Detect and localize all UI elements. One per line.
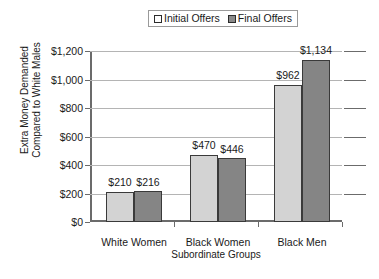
x-axis-label-black-women: Black Women (186, 236, 251, 248)
y-axis-label-400: $400 (60, 160, 83, 171)
y-axis-title-line-1: Extra Money Demanded (19, 15, 31, 185)
bar-value-label-black-women-final: $446 (220, 144, 243, 155)
y-axis-title: Extra Money Demanded Compared to White M… (19, 15, 43, 185)
x-axis-label-black-men: Black Men (277, 236, 326, 248)
grid-stub-1000 (344, 80, 366, 81)
bar-black-women-final (218, 158, 246, 222)
y-axis-label-200: $200 (60, 188, 83, 199)
bar-value-label-white-women-initial: $210 (108, 177, 131, 188)
x-axis-title: Subordinate Groups (90, 249, 342, 261)
y-axis-label-600: $600 (60, 131, 83, 142)
bar-black-women-initial (190, 155, 218, 222)
y-tick-800 (85, 108, 90, 109)
y-tick-1200 (85, 51, 90, 52)
bar-white-women-initial (106, 192, 134, 222)
bar-black-men-initial (274, 85, 302, 222)
grid-stub-1200 (344, 51, 366, 52)
legend-item-initial-offers: Initial Offers (154, 13, 220, 24)
y-axis-label-0: $0 (71, 217, 83, 228)
bar-value-label-black-men-final: $1,134 (300, 45, 332, 56)
bar-white-women-final (134, 191, 162, 222)
y-tick-0 (85, 222, 90, 223)
legend-swatch-final-offers-icon (228, 15, 236, 23)
chart-legend: Initial Offers Final Offers (148, 10, 298, 27)
legend-label-final-offers: Final Offers (238, 13, 292, 24)
legend-swatch-initial-offers-icon (154, 15, 162, 23)
plot-area: $1,200 $1,000 $800 $600 $400 $200 $0 $21… (90, 51, 342, 222)
bar-black-men-final (302, 60, 330, 222)
x-axis-label-white-women: White Women (101, 236, 167, 248)
y-tick-1000 (85, 80, 90, 81)
bar-value-label-black-men-initial: $962 (276, 70, 299, 81)
y-tick-200 (85, 194, 90, 195)
grid-stub-800 (344, 108, 366, 109)
grid-stub-200 (344, 194, 366, 195)
y-axis-title-line-2: Compared to White Males (31, 15, 43, 185)
x-axis-separator-2 (258, 222, 259, 227)
bar-chart: Initial Offers Final Offers Extra Money … (0, 0, 379, 279)
grid-stub-400 (344, 165, 366, 166)
grid-stub-600 (344, 137, 366, 138)
y-axis-label-800: $800 (60, 103, 83, 114)
x-axis-end-tick (342, 222, 343, 227)
y-tick-400 (85, 165, 90, 166)
legend-label-initial-offers: Initial Offers (164, 13, 220, 24)
y-tick-600 (85, 137, 90, 138)
y-axis-label-1200: $1,200 (51, 46, 83, 57)
y-axis-label-1000: $1,000 (51, 74, 83, 85)
legend-item-final-offers: Final Offers (228, 13, 292, 24)
bar-value-label-black-women-initial: $470 (192, 140, 215, 151)
x-axis-separator-1 (174, 222, 175, 227)
bar-value-label-white-women-final: $216 (136, 177, 159, 188)
